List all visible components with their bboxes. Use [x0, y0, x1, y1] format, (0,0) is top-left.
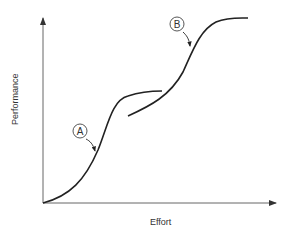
svg-text:A: A	[77, 126, 84, 137]
x-axis-label: Effort	[150, 217, 171, 227]
svg-text:B: B	[174, 19, 181, 30]
y-axis-label: Performance	[10, 73, 20, 125]
s-curve-diagram: A B	[0, 0, 296, 235]
marker-b: B	[170, 17, 190, 46]
curve-b	[128, 18, 248, 116]
marker-a: A	[73, 124, 95, 151]
